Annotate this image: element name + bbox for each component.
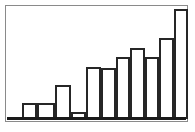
- bars-layer: [0, 0, 195, 119]
- bar-7: [116, 57, 130, 119]
- bar-8: [130, 48, 145, 119]
- bar-5: [86, 67, 101, 119]
- bar-11: [174, 9, 188, 119]
- bar-6: [101, 68, 116, 119]
- bar-chart-figure: [0, 0, 195, 132]
- bar-10: [159, 38, 174, 119]
- x-axis-baseline: [7, 117, 186, 120]
- bar-3: [55, 85, 71, 119]
- bar-9: [145, 57, 159, 119]
